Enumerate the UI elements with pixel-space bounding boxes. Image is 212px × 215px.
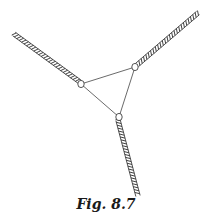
rope-upper-left: [12, 32, 82, 84]
ring-left: [78, 80, 84, 87]
rope-upper-right: [136, 11, 200, 67]
ring-right: [132, 63, 138, 70]
figure-caption: Fig. 8.7: [0, 196, 212, 212]
ring-bottom: [116, 113, 122, 120]
figure-diagram: [0, 0, 212, 215]
connecting-cord: [81, 84, 119, 117]
rope-bottom: [116, 119, 141, 196]
connecting-cord: [119, 67, 135, 117]
connecting-cord: [81, 67, 135, 84]
